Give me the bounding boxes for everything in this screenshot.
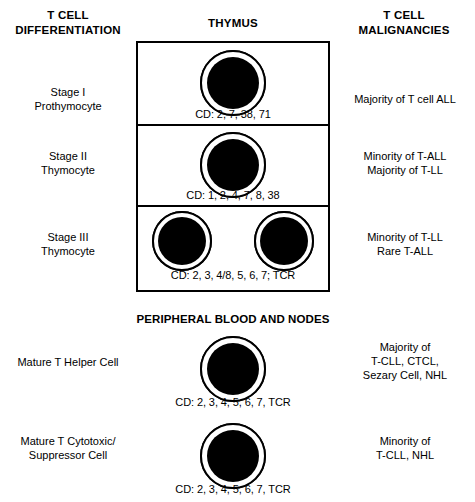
peripheral-row-helper: CD: 2, 3, 4, 5, 6, 7, TCR bbox=[136, 336, 330, 408]
cd-markers-stage-1: CD: 2, 7, 38, 71 bbox=[138, 108, 328, 121]
stage-label-stage-2-line1: Stage II bbox=[2, 149, 134, 163]
stage-label-cytotoxic-line2: Suppressor Cell bbox=[2, 448, 134, 462]
cell-nucleus-icon bbox=[207, 139, 259, 191]
cell-row-cytotoxic bbox=[136, 423, 330, 489]
cd-markers-stage-3: CD: 2, 3, 4/8, 5, 6, 7; TCR bbox=[138, 269, 328, 282]
column-header-differentiation: T CELL DIFFERENTIATION bbox=[8, 8, 128, 37]
malignancy-label-stage-3: Minority of T-LL Rare T-ALL bbox=[336, 230, 474, 258]
malignancy-label-stage-3-line2: Rare T-ALL bbox=[336, 244, 474, 258]
stage-label-stage-2: Stage II Thymocyte bbox=[2, 149, 134, 177]
stage-label-stage-3-line1: Stage III bbox=[2, 230, 134, 244]
malignancy-label-helper-line1: Majority of bbox=[336, 340, 474, 354]
cell-nucleus-icon bbox=[260, 217, 308, 265]
malignancy-label-stage-1: Majority of T cell ALL bbox=[336, 92, 474, 106]
malignancy-label-cytotoxic-line2: T-CLL, NHL bbox=[336, 448, 474, 462]
column-header-malignancies-line1: T CELL bbox=[338, 8, 470, 23]
malignancy-label-helper-line2: T-CLL, CTCL, bbox=[336, 354, 474, 368]
malignancy-label-stage-2-line2: Majority of T-LL bbox=[336, 163, 474, 177]
stage-label-cytotoxic-line1: Mature T Cytotoxic/ bbox=[2, 434, 134, 448]
cell-nucleus-icon bbox=[207, 430, 259, 482]
thymus-compartment-stage-1: CD: 2, 7, 38, 71 bbox=[138, 43, 328, 126]
column-header-malignancies-line2: MALIGNANCIES bbox=[338, 23, 470, 38]
peripheral-row-cytotoxic: CD: 2, 3, 4, 5, 6, 7, TCR bbox=[136, 423, 330, 495]
cd-markers-cytotoxic: CD: 2, 3, 4, 5, 6, 7, TCR bbox=[136, 483, 330, 496]
malignancy-label-stage-2: Minority of T-ALL Majority of T-LL bbox=[336, 149, 474, 177]
cd-markers-stage-2: CD: 1, 2, 4, 7, 8, 38 bbox=[138, 189, 328, 202]
stage-label-stage-2-line2: Thymocyte bbox=[2, 163, 134, 177]
malignancy-label-helper: Majority of T-CLL, CTCL, Sezary Cell, NH… bbox=[336, 340, 474, 382]
column-header-differentiation-line2: DIFFERENTIATION bbox=[8, 23, 128, 38]
malignancy-label-cytotoxic: Minority of T-CLL, NHL bbox=[336, 434, 474, 462]
cell-nucleus-icon bbox=[158, 217, 206, 265]
t-cell-glyph-cd8 bbox=[254, 211, 314, 271]
stage-label-cytotoxic: Mature T Cytotoxic/ Suppressor Cell bbox=[2, 434, 134, 462]
t-cell-glyph bbox=[200, 423, 266, 489]
cell-nucleus-icon bbox=[207, 57, 259, 109]
t-cell-glyph bbox=[200, 336, 266, 402]
malignancy-label-helper-line3: Sezary Cell, NHL bbox=[336, 368, 474, 382]
column-header-malignancies: T CELL MALIGNANCIES bbox=[338, 8, 470, 37]
section-header-peripheral-blood: PERIPHERAL BLOOD AND NODES bbox=[136, 313, 330, 325]
thymus-compartment-stage-3: CD: 2, 3, 4/8, 5, 6, 7; TCR bbox=[138, 207, 328, 289]
cd-markers-helper: CD: 2, 3, 4, 5, 6, 7, TCR bbox=[136, 396, 330, 409]
stage-label-stage-3: Stage III Thymocyte bbox=[2, 230, 134, 258]
cell-row-stage-1 bbox=[138, 50, 328, 116]
malignancy-label-stage-2-line1: Minority of T-ALL bbox=[336, 149, 474, 163]
malignancy-label-stage-3-line1: Minority of T-LL bbox=[336, 230, 474, 244]
column-header-thymus: THYMUS bbox=[136, 16, 330, 31]
malignancy-label-cytotoxic-line1: Minority of bbox=[336, 434, 474, 448]
thymus-box: CD: 2, 7, 38, 71 CD: 1, 2, 4, 7, 8, 38 bbox=[136, 41, 330, 292]
cell-row-stage-3 bbox=[138, 211, 328, 271]
stage-label-helper: Mature T Helper Cell bbox=[2, 355, 134, 369]
t-cell-glyph-cd4 bbox=[152, 211, 212, 271]
column-header-differentiation-line1: T CELL bbox=[8, 8, 128, 23]
stage-label-stage-3-line2: Thymocyte bbox=[2, 244, 134, 258]
t-cell-differentiation-diagram: T CELL DIFFERENTIATION THYMUS T CELL MAL… bbox=[0, 0, 475, 502]
malignancy-label-stage-1-line1: Majority of T cell ALL bbox=[336, 92, 474, 106]
column-header-band: T CELL DIFFERENTIATION THYMUS T CELL MAL… bbox=[0, 0, 475, 40]
cell-row-helper bbox=[136, 336, 330, 402]
stage-label-stage-1: Stage I Prothymocyte bbox=[2, 85, 134, 113]
t-cell-glyph bbox=[200, 50, 266, 116]
thymus-compartment-stage-2: CD: 1, 2, 4, 7, 8, 38 bbox=[138, 126, 328, 207]
stage-label-stage-1-line2: Prothymocyte bbox=[2, 99, 134, 113]
cell-nucleus-icon bbox=[207, 343, 259, 395]
stage-label-helper-line1: Mature T Helper Cell bbox=[2, 355, 134, 369]
stage-label-stage-1-line1: Stage I bbox=[2, 85, 134, 99]
